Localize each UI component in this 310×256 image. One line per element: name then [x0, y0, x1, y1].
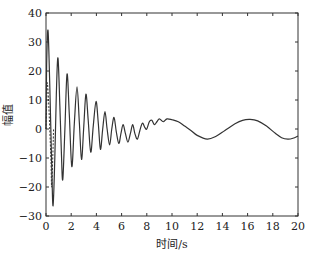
x-tick-label: 0: [43, 220, 50, 233]
y-tick-label: −30: [19, 210, 42, 223]
x-tick-label: 4: [93, 220, 100, 233]
x-tick-label: 14: [215, 220, 229, 233]
plot-frame: [46, 13, 298, 216]
series-solid-line: [46, 30, 298, 206]
y-tick-label: 40: [28, 7, 42, 20]
y-tick-label: 0: [35, 123, 42, 136]
x-tick-label: 2: [68, 220, 75, 233]
x-tick-label: 12: [190, 220, 204, 233]
x-tick-label: 16: [241, 220, 255, 233]
x-tick-label: 10: [165, 220, 179, 233]
y-tick-label: 10: [28, 94, 42, 107]
x-tick-label: 6: [118, 220, 125, 233]
line-chart: 02468101214161820−30−20−10010203040 时间/s…: [0, 0, 310, 256]
y-tick-label: 30: [28, 36, 42, 49]
x-tick-label: 18: [266, 220, 280, 233]
x-tick-label: 20: [291, 220, 305, 233]
y-tick-label: 20: [28, 65, 42, 78]
x-axis-label: 时间/s: [156, 238, 188, 251]
y-tick-label: −10: [19, 152, 42, 165]
series-layer: [46, 30, 298, 206]
y-axis-label: 幅值: [2, 104, 15, 126]
x-tick-label: 8: [143, 220, 150, 233]
y-tick-label: −20: [19, 181, 42, 194]
axis-ticks: 02468101214161820−30−20−10010203040: [19, 7, 305, 233]
